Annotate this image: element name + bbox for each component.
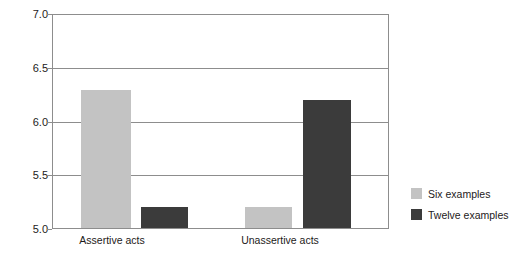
y-tick-mark-5-0 (47, 229, 52, 230)
legend-label-six-examples: Six examples (428, 188, 490, 200)
x-tick-label-assertive-acts: Assertive acts (54, 234, 170, 247)
y-tick-label-6-5: 6.5 (22, 63, 48, 74)
plot-area (52, 14, 389, 229)
y-tick-label-7-0: 7.0 (22, 9, 48, 20)
bar-unassertive-twelve (303, 100, 351, 228)
bar-chart-figure: Self-rated assertiveness 7.0 6.5 6.0 5.5… (0, 0, 518, 256)
chart-legend: Six examples Twelve examples (411, 183, 516, 225)
bar-assertive-twelve (141, 207, 188, 228)
y-tick-label-5-0: 5.0 (22, 224, 48, 235)
legend-swatch-twelve-examples (411, 209, 422, 220)
legend-swatch-six-examples (411, 188, 422, 199)
legend-label-twelve-examples: Twelve examples (428, 209, 509, 221)
y-tick-label-5-5: 5.5 (22, 170, 48, 181)
bar-unassertive-six (245, 207, 292, 228)
legend-item-six-examples: Six examples (411, 183, 516, 204)
legend-item-twelve-examples: Twelve examples (411, 204, 516, 225)
bar-assertive-six (81, 90, 131, 228)
x-tick-label-unassertive-acts: Unassertive acts (215, 234, 345, 247)
y-axis-tick-labels: 7.0 6.5 6.0 5.5 5.0 (18, 0, 48, 256)
gridline-6-5 (53, 68, 388, 69)
y-tick-label-6-0: 6.0 (22, 117, 48, 128)
